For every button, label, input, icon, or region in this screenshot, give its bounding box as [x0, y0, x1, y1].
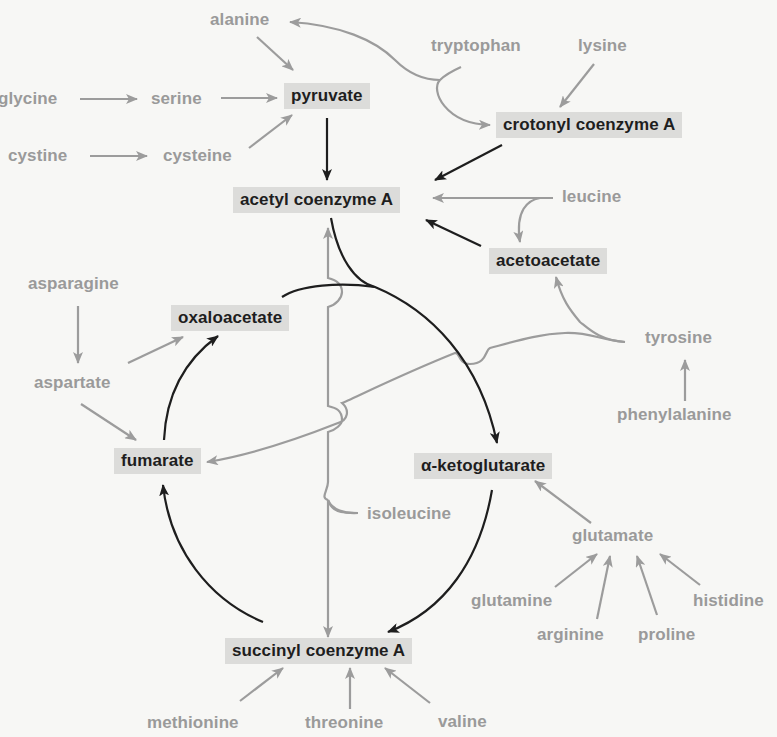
arrow-isoleucine-acetylcoa: [324, 228, 342, 500]
arrow-acetoacetate-acetylcoa: [426, 220, 481, 246]
metabolite-fumarate: fumarate: [114, 448, 201, 474]
amino-acid-cysteine: cysteine: [163, 146, 232, 166]
arrow-fumarate-oxaloacetate: [164, 336, 218, 440]
metabolite-succinyl-coa: succinyl coenzyme A: [225, 638, 412, 664]
amino-acid-catabolism-diagram: pyruvate acetyl coenzyme A crotonyl coen…: [0, 0, 777, 737]
amino-acid-alanine: alanine: [210, 10, 269, 30]
amino-acid-lysine: lysine: [578, 36, 627, 56]
amino-acid-leucine: leucine: [562, 187, 621, 207]
arrow-cysteine-pyruvate: [249, 115, 292, 148]
arrow-leucine-acetoacetate: [519, 198, 540, 242]
amino-acid-threonine: threonine: [305, 713, 383, 733]
amino-acid-serine: serine: [151, 89, 202, 109]
amino-acid-histidine: histidine: [693, 591, 764, 611]
metabolite-acetoacetate: acetoacetate: [489, 248, 607, 274]
arrow-crotonyl-acetylcoa: [435, 145, 502, 180]
isoleucine-stem: [328, 500, 358, 513]
arrow-glutamate-akg: [535, 481, 591, 523]
arrow-methionine-succinylcoa: [240, 668, 283, 701]
amino-acid-tryptophan: tryptophan: [431, 36, 521, 56]
amino-acid-phenylalanine: phenylalanine: [617, 405, 732, 425]
arrow-proline-glutamate: [637, 556, 657, 615]
amino-acid-isoleucine: isoleucine: [367, 504, 451, 524]
amino-acid-glutamate: glutamate: [572, 526, 653, 546]
arrow-valine-succinylcoa: [385, 668, 430, 703]
arrow-tryptophan-alanine: [290, 22, 440, 80]
arrow-alanine-pyruvate: [257, 37, 293, 70]
metabolite-oxaloacetate: oxaloacetate: [171, 305, 289, 331]
arrow-tyrosine-fumarate: [207, 333, 625, 462]
arrow-acetylcoa-akg: [331, 218, 497, 443]
amino-acid-aspartate: aspartate: [34, 373, 111, 393]
metabolite-acetyl-coa: acetyl coenzyme A: [233, 187, 400, 213]
arrow-succinylcoa-fumarate: [163, 485, 263, 622]
arrow-lysine-crotonyl: [560, 64, 594, 107]
amino-acid-cystine: cystine: [8, 146, 67, 166]
arrow-aspartate-fumarate: [81, 404, 136, 440]
arrow-histidine-glutamate: [660, 554, 700, 585]
metabolite-pyruvate: pyruvate: [284, 83, 370, 109]
amino-acid-asparagine: asparagine: [28, 274, 119, 294]
metabolite-crotonyl-coa: crotonyl coenzyme A: [496, 112, 682, 138]
amino-acid-glutamine: glutamine: [471, 591, 552, 611]
amino-acid-tyrosine: tyrosine: [645, 328, 712, 348]
amino-acid-glycine: glycine: [0, 89, 57, 109]
arrow-isoleucine-succinylcoa: [328, 500, 358, 637]
amino-acid-valine: valine: [438, 712, 487, 732]
amino-acid-arginine: arginine: [537, 625, 604, 645]
amino-acid-proline: proline: [638, 625, 695, 645]
arrow-aspartate-oxaloacetate: [128, 337, 183, 363]
arc-oxaloacetate-akg: [282, 285, 375, 297]
amino-acid-methionine: methionine: [147, 713, 239, 733]
metabolite-alpha-ketoglutarate: α-ketoglutarate: [414, 453, 552, 479]
arrow-glutamine-glutamate: [555, 554, 597, 587]
arrow-arginine-glutamate: [597, 556, 610, 619]
arrow-tryptophan-crotonyl: [437, 67, 490, 125]
